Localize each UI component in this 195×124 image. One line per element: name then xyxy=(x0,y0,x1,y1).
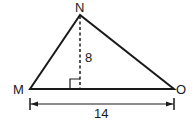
vertex-label-m: M xyxy=(13,82,24,97)
triangle-diagram: N M O 8 14 xyxy=(0,0,195,124)
triangle-figure: N M O 8 14 xyxy=(0,0,195,124)
arrow-right-icon xyxy=(166,102,173,107)
arrow-left-icon xyxy=(31,102,38,107)
right-angle-marker xyxy=(70,79,80,89)
vertex-label-o: O xyxy=(176,82,186,97)
base-label: 14 xyxy=(94,106,108,121)
height-label: 8 xyxy=(85,50,92,65)
vertex-label-n: N xyxy=(75,0,84,15)
triangle-mno xyxy=(30,15,174,89)
